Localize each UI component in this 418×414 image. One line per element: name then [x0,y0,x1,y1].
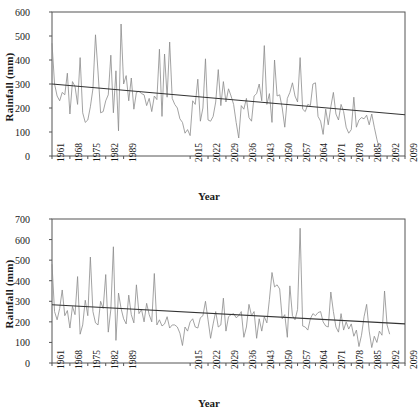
x-tick-label: 1982 [110,350,120,369]
data-series-line [52,24,379,149]
x-tick-label: 2050 [284,350,294,369]
data-series-line [52,228,390,347]
x-tick-label: 2071 [337,350,347,369]
x-tick-label: 1975 [92,350,102,369]
x-tick-label: 2064 [319,350,329,369]
x-tick-label: 2064 [319,143,329,162]
plot-area-top [0,0,418,207]
x-tick-label: 1975 [92,143,102,162]
x-tick-label: 1989 [128,350,138,369]
x-tick-label: 2092 [391,143,401,162]
x-tick-label: 2099 [409,350,418,369]
x-tick-label: 1968 [74,143,84,162]
x-tick-label: 2029 [230,143,240,162]
x-tick-label: 2036 [248,350,258,369]
x-tick-label: 2015 [194,143,204,162]
x-tick-label: 2036 [248,143,258,162]
x-tick-label: 1968 [74,350,84,369]
x-tick-label: 2078 [355,350,365,369]
x-tick-label: 2022 [212,143,222,162]
x-tick-label: 2092 [391,350,401,369]
trend-line [52,305,405,324]
rainfall-figure: Rainfall (mm) 0100200300400500600 196119… [0,0,418,414]
x-tick-label: 2078 [355,143,365,162]
x-tick-label: 2099 [409,143,418,162]
x-tick-label: 2043 [266,350,276,369]
x-tick-label: 2022 [212,350,222,369]
x-tick-label: 2015 [194,350,204,369]
x-tick-label: 2050 [284,143,294,162]
x-tick-label: 2071 [337,143,347,162]
x-tick-label: 1989 [128,143,138,162]
x-tick-label: 2085 [373,143,383,162]
chart-panel-top: Rainfall (mm) 0100200300400500600 196119… [0,0,418,207]
x-axis-label-bottom: Year [0,397,418,409]
x-tick-label: 1961 [56,350,66,369]
x-tick-label: 2057 [302,350,312,369]
x-tick-label: 1982 [110,143,120,162]
chart-panel-bottom: Rainfall (mm) 0100200300400500600700 196… [0,207,418,414]
plot-area-bottom [0,207,418,414]
x-tick-label: 1961 [56,143,66,162]
x-tick-label: 2057 [302,143,312,162]
x-axis-label-top: Year [0,190,418,202]
x-tick-label: 2043 [266,143,276,162]
x-tick-label: 2085 [373,350,383,369]
x-tick-label: 2029 [230,350,240,369]
